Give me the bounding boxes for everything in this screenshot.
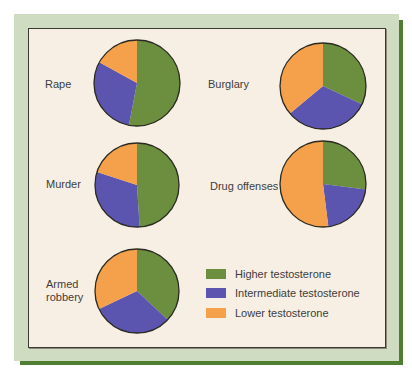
pie-label-line: Rape: [45, 78, 71, 91]
pie-label-murder: Murder: [46, 178, 81, 191]
legend-swatch-intermediate: [206, 288, 226, 298]
pie-label-drug-offenses: Drug offenses: [210, 180, 278, 193]
pie-label-rape: Rape: [45, 78, 71, 91]
legend-item-intermediate: Intermediate testosterone: [206, 287, 360, 299]
pie-slice-higher: [137, 143, 179, 227]
pie-label-line: Armed: [46, 278, 83, 291]
pie-rape: [94, 40, 180, 126]
legend-swatch-higher: [206, 269, 226, 279]
pie-label-line: Drug offenses: [210, 180, 278, 193]
pie-label-burglary: Burglary: [208, 78, 249, 91]
legend-label-higher: Higher testosterone: [235, 268, 331, 280]
legend-swatch-lower: [206, 308, 226, 318]
pie-drug-offenses: [280, 141, 366, 227]
pie-murder: [95, 143, 179, 227]
legend-label-lower: Lower testosterone: [235, 307, 329, 319]
pie-slice-intermediate: [323, 184, 366, 227]
pie-label-line: robbery: [46, 291, 83, 304]
pie-burglary: [280, 43, 366, 129]
pie-armed-robbery: [95, 249, 179, 333]
legend-item-higher: Higher testosterone: [206, 268, 331, 280]
pie-slice-higher: [323, 141, 366, 189]
pie-label-line: Burglary: [208, 78, 249, 91]
pie-slice-lower: [280, 141, 328, 227]
legend-item-lower: Lower testosterone: [206, 307, 329, 319]
legend-label-intermediate: Intermediate testosterone: [235, 287, 360, 299]
pie-label-armed-robbery: Armedrobbery: [46, 278, 83, 304]
pie-label-line: Murder: [46, 178, 81, 191]
